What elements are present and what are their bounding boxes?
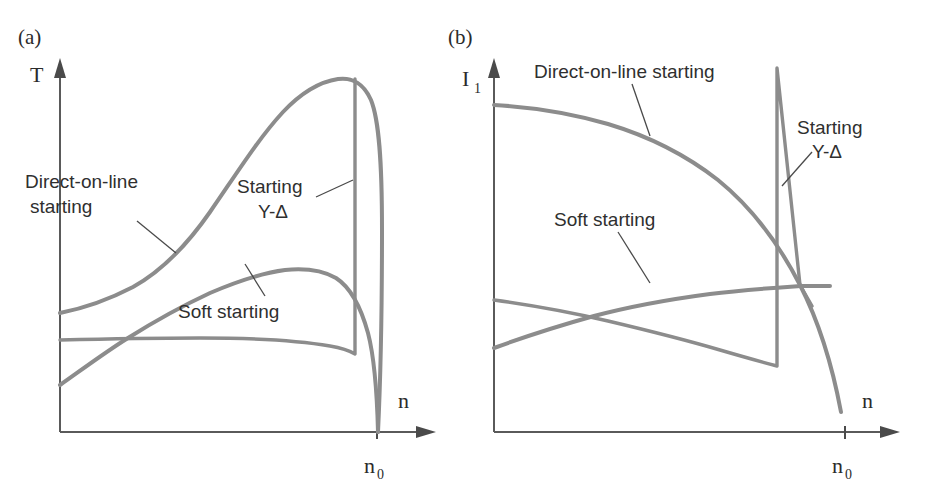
panel-a-label-soft-starting: Soft starting	[178, 301, 279, 322]
svg-text:n: n	[832, 453, 843, 478]
panel-b-n0-label: n 0	[832, 453, 852, 482]
panel-a-label-star-delta: Starting Y-Δ	[237, 176, 302, 222]
panel-b-x-axis-arrowhead	[880, 426, 900, 438]
panel-b-label-direct-on-line: Direct-on-line starting	[534, 61, 715, 82]
svg-text:Starting: Starting	[237, 176, 302, 197]
panel-b-label-star-delta: Starting Y-Δ	[797, 117, 862, 162]
svg-text:0: 0	[845, 467, 852, 482]
panel-b-leader-direct-on-line	[632, 84, 650, 136]
panel-a-curve-direct-on-line	[60, 79, 382, 432]
svg-text:Direct-on-line: Direct-on-line	[25, 171, 138, 192]
panel-a-curve-soft-starting	[60, 269, 378, 432]
panel-b-label-soft-starting: Soft starting	[554, 209, 655, 230]
panel-a-y-axis-label: T	[30, 62, 44, 87]
panel-b-tag: (b)	[448, 25, 473, 49]
panel-a-y-axis-arrowhead	[54, 58, 66, 78]
svg-text:n: n	[364, 453, 375, 478]
panel-a-tag: (a)	[18, 25, 41, 49]
panel-a: (a) T n n 0 Direct-on-line starting	[18, 25, 436, 482]
svg-text:0: 0	[377, 467, 384, 482]
panel-a-leader-direct-on-line	[137, 221, 176, 253]
panel-b: (b) I 1 n n 0 Direct-on-line starti	[448, 25, 900, 482]
panel-a-label-direct-on-line: Direct-on-line starting	[25, 171, 138, 217]
panel-b-y-axis-arrowhead	[488, 58, 500, 78]
panel-b-curve-direct-on-line	[494, 105, 841, 412]
svg-text:Y-Δ: Y-Δ	[258, 201, 288, 222]
panel-b-y-axis-label: I 1	[462, 66, 481, 96]
svg-text:starting: starting	[30, 196, 92, 217]
panel-a-x-axis-label: n	[398, 388, 409, 413]
panel-a-n0-label: n 0	[364, 453, 384, 482]
svg-text:I: I	[462, 66, 469, 91]
panel-b-leader-soft-starting	[618, 232, 650, 283]
svg-text:1: 1	[474, 81, 481, 96]
panel-a-leader-star-delta	[316, 180, 353, 197]
svg-text:Y-Δ: Y-Δ	[812, 141, 842, 162]
panel-b-curve-soft-starting	[494, 286, 830, 348]
panel-b-x-axis-label: n	[862, 388, 873, 413]
figure-two-panel-motor-starting: (a) T n n 0 Direct-on-line starting	[0, 0, 929, 482]
panel-a-x-axis-arrowhead	[416, 426, 436, 438]
svg-text:Starting: Starting	[797, 117, 862, 138]
